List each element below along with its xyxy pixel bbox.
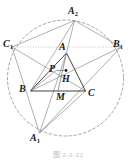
label-a1: A1 bbox=[30, 133, 40, 143]
label-b: B bbox=[19, 84, 26, 94]
geometry-figure: A2 C1 B1 A P H B M C A1 图 2-2-22 bbox=[0, 0, 136, 165]
median-am bbox=[58, 53, 67, 91]
label-c1: C1 bbox=[3, 39, 13, 49]
chord-a1-b1 bbox=[40, 47, 122, 133]
label-m: M bbox=[56, 92, 65, 102]
label-b1: B1 bbox=[113, 39, 123, 49]
label-a: A bbox=[59, 42, 66, 52]
point-h-dot bbox=[65, 69, 68, 72]
label-a2: A2 bbox=[68, 6, 78, 16]
label-c: C bbox=[88, 88, 95, 98]
label-h: H bbox=[62, 74, 70, 84]
figure-caption: 图 2-2-22 bbox=[0, 152, 136, 159]
label-p: P bbox=[49, 64, 55, 74]
line-a-a2 bbox=[67, 21, 75, 54]
